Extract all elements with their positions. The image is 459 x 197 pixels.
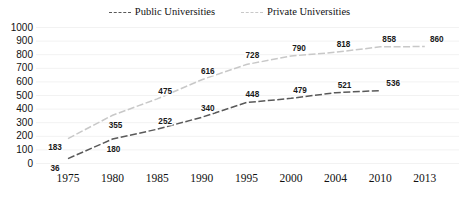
- x-tick-label: 1990: [190, 172, 213, 184]
- x-tick-label: 1995: [235, 172, 258, 184]
- x-tick-label: 1985: [146, 172, 169, 184]
- x-tick-label: 2013: [413, 172, 436, 184]
- x-tick-label: 2000: [280, 172, 303, 184]
- x-tick-label: 1980: [101, 172, 124, 184]
- x-tick-label: 2004: [324, 172, 347, 184]
- x-tick-label: 2010: [369, 172, 392, 184]
- x-tick-label: 1975: [57, 172, 80, 184]
- line-chart: Public Universities Private Universities…: [0, 0, 459, 197]
- x-axis: 197519801985199019952000200420102013: [0, 0, 459, 197]
